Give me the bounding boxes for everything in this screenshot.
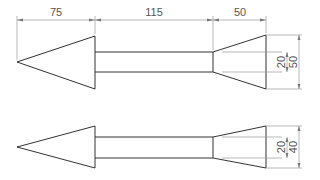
dim-label-outer-height: 40	[287, 141, 299, 153]
arrowhead-icon	[89, 19, 95, 22]
arrowhead-icon	[95, 19, 101, 22]
arrowhead-icon	[207, 19, 213, 22]
arrowhead-icon	[17, 19, 23, 22]
arrow-view-b: 20 40	[17, 126, 302, 168]
arrow-head-triangle	[17, 126, 95, 168]
arrowhead-icon	[298, 35, 301, 40]
arrowhead-icon	[298, 126, 301, 131]
dim-label-shaft-length: 115	[145, 6, 163, 18]
arrow-view-a: 20 50	[17, 35, 302, 89]
tail-cone	[213, 35, 266, 89]
technical-drawing: 75 115 50 20 50	[0, 0, 320, 180]
dim-label-inner-height: 20	[275, 141, 287, 153]
arrowhead-icon	[213, 19, 219, 22]
dim-label-head-length: 75	[50, 6, 62, 18]
arrowhead-icon	[298, 163, 301, 168]
dim-label-tail-length: 50	[234, 6, 246, 18]
dim-label-outer-height: 50	[287, 56, 299, 68]
arrowhead-icon	[298, 84, 301, 89]
dim-label-inner-height: 20	[275, 56, 287, 68]
arrowhead-icon	[260, 19, 266, 22]
tail-cone	[213, 126, 266, 168]
arrow-head-triangle	[17, 36, 95, 89]
